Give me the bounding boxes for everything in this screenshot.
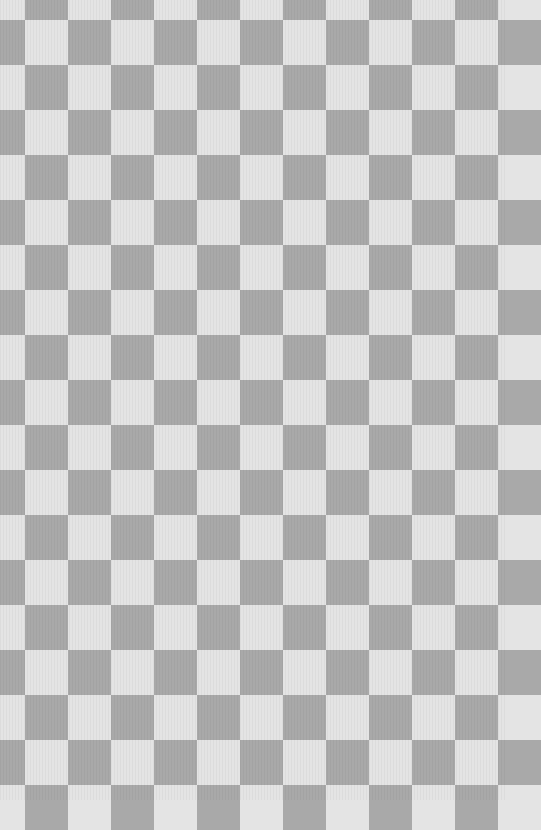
light-square [455,470,498,515]
dark-square [68,740,111,785]
dark-square [68,470,111,515]
light-square [326,605,369,650]
dark-square [369,425,412,470]
dark-square [0,200,25,245]
light-square [111,740,154,785]
dark-square [0,20,25,65]
dark-square [326,560,369,605]
dark-square [111,425,154,470]
light-square [197,470,240,515]
dark-square [25,245,68,290]
dark-square [197,425,240,470]
dark-square [111,785,154,830]
dark-square [326,110,369,155]
dark-square [0,470,25,515]
light-square [197,650,240,695]
dark-square [68,290,111,335]
light-square [154,245,197,290]
dark-square [197,605,240,650]
dark-square [240,650,283,695]
dark-square [369,335,412,380]
light-square [369,290,412,335]
light-square [326,785,369,830]
light-square [412,605,455,650]
light-square [283,560,326,605]
light-square [25,20,68,65]
light-square [111,470,154,515]
light-square [111,200,154,245]
dark-square [154,740,197,785]
dark-square [154,380,197,425]
light-square [111,560,154,605]
light-square [240,65,283,110]
light-square [111,20,154,65]
dark-square [283,605,326,650]
dark-square [498,20,541,65]
dark-square [111,0,154,20]
dark-square [240,380,283,425]
light-square [455,380,498,425]
light-square [455,560,498,605]
light-square [283,290,326,335]
light-square [326,155,369,200]
dark-square [111,65,154,110]
dark-square [369,785,412,830]
dark-square [68,560,111,605]
light-square [326,245,369,290]
light-square [0,0,25,20]
dark-square [412,740,455,785]
light-square [412,335,455,380]
dark-square [154,20,197,65]
dark-square [25,605,68,650]
dark-square [111,155,154,200]
dark-square [68,20,111,65]
dark-square [68,380,111,425]
light-square [369,470,412,515]
light-square [25,740,68,785]
light-square [369,110,412,155]
light-square [326,335,369,380]
light-square [68,65,111,110]
light-square [154,65,197,110]
dark-square [326,200,369,245]
light-square [369,650,412,695]
light-square [498,425,541,470]
light-square [412,65,455,110]
dark-square [498,110,541,155]
dark-square [25,65,68,110]
light-square [412,245,455,290]
dark-square [240,290,283,335]
light-square [25,380,68,425]
light-square [412,0,455,20]
dark-square [197,245,240,290]
dark-square [369,245,412,290]
light-square [68,155,111,200]
light-square [68,245,111,290]
dark-square [25,425,68,470]
dark-square [25,515,68,560]
light-square [0,515,25,560]
dark-square [283,245,326,290]
light-square [68,0,111,20]
light-square [25,290,68,335]
light-square [154,155,197,200]
light-square [326,65,369,110]
light-square [25,200,68,245]
dark-square [498,470,541,515]
light-square [283,650,326,695]
dark-square [111,695,154,740]
light-square [369,740,412,785]
light-square [0,425,25,470]
light-square [197,110,240,155]
dark-square [412,470,455,515]
dark-square [197,695,240,740]
light-square [68,785,111,830]
dark-square [283,515,326,560]
light-square [498,605,541,650]
light-square [240,695,283,740]
dark-square [326,740,369,785]
dark-square [326,470,369,515]
light-square [283,380,326,425]
dark-square [25,335,68,380]
dark-square [498,560,541,605]
